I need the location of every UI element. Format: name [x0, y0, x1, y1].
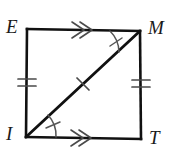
vertex-label-T: T: [149, 128, 160, 147]
side-EI: [26, 29, 27, 137]
vertex-label-I: I: [6, 124, 12, 143]
vertex-label-E: E: [6, 17, 18, 36]
vertex-label-M: M: [148, 18, 164, 37]
side-MT: [140, 31, 141, 139]
geometry-figure: E M T I: [0, 0, 181, 163]
